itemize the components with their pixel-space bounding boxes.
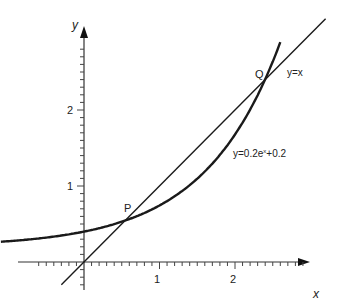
point-q-label: Q — [255, 68, 264, 80]
x-axis-arrow-icon — [298, 258, 310, 266]
curve-label-constant: +0.2 — [266, 148, 286, 159]
line-label: y=x — [287, 67, 303, 78]
point-p-label: P — [124, 202, 131, 214]
plot-canvas — [0, 0, 343, 304]
exponential-curve — [1, 42, 280, 242]
curve-label-base: y=0.2e — [233, 148, 263, 159]
curve-label: y=0.2ex+0.2 — [233, 148, 286, 159]
x-tick-label-1: 1 — [154, 273, 160, 285]
graph-diagram: y x 1 2 1 2 P Q y=x y=0.2ex+0.2 — [0, 0, 343, 304]
y-axis-arrow-icon — [80, 26, 88, 38]
x-tick-label-2: 2 — [230, 273, 236, 285]
y-axis-label: y — [72, 18, 78, 32]
x-axis-label: x — [313, 287, 319, 301]
y-tick-label-1: 1 — [67, 180, 73, 192]
y-tick-label-2: 2 — [67, 104, 73, 116]
